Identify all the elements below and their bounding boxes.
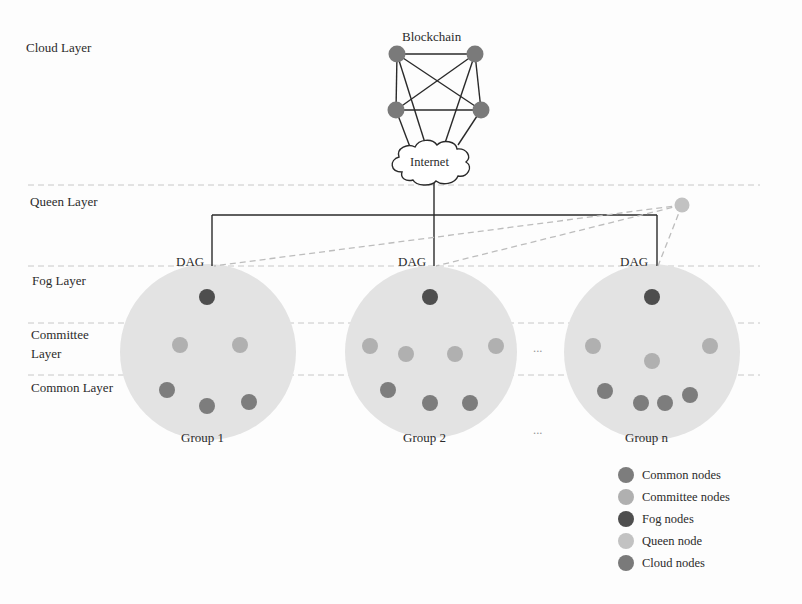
blockchain-label: Blockchain [402, 29, 461, 44]
layer-label-committee-1: Committee [31, 327, 89, 342]
legend-item-common: Common nodes [618, 464, 721, 486]
group-label-n: Group n [625, 430, 668, 445]
fog-node [644, 289, 660, 305]
committee-node [172, 337, 188, 353]
committee-node [362, 338, 378, 354]
common-node [199, 398, 215, 414]
committee-node [447, 346, 463, 362]
legend-label: Fog nodes [642, 512, 694, 527]
ellipsis-bottom: ... [533, 423, 542, 438]
committee-node-icon [618, 489, 634, 505]
common-node [159, 382, 175, 398]
cloud-node [473, 102, 490, 119]
legend-label: Committee nodes [642, 490, 730, 505]
common-node [682, 387, 698, 403]
committee-node [585, 338, 601, 354]
layer-label-queen: Queen Layer [30, 194, 98, 209]
committee-node [644, 353, 660, 369]
layer-label-cloud: Cloud Layer [26, 40, 91, 55]
cloud-node [388, 102, 405, 119]
cloud-node-icon [618, 555, 634, 571]
legend-item-committee: Committee nodes [618, 486, 730, 508]
common-node [597, 383, 613, 399]
common-node [241, 394, 257, 410]
layer-label-common: Common Layer [31, 380, 113, 395]
fog-node-icon [618, 511, 634, 527]
network-bus [212, 183, 657, 266]
cloud-node [389, 46, 406, 63]
ellipsis-middle: ... [533, 341, 542, 356]
fog-node [199, 289, 215, 305]
layer-label-committee-2: Layer [31, 346, 61, 361]
blockchain-mesh [396, 54, 481, 147]
legend-item-queen: Queen node [618, 530, 702, 552]
common-node [633, 395, 649, 411]
common-node [380, 382, 396, 398]
legend-item-cloud: Cloud nodes [618, 552, 705, 574]
cloud-node [467, 46, 484, 63]
committee-node [488, 338, 504, 354]
common-node [422, 395, 438, 411]
dag-label-group-1: DAG [176, 254, 204, 269]
common-node [657, 395, 673, 411]
dag-label-group-n: DAG [620, 254, 648, 269]
dag-label-group-2: DAG [398, 254, 426, 269]
committee-node [398, 346, 414, 362]
common-node [462, 395, 478, 411]
queen-node [675, 198, 690, 213]
legend-item-fog: Fog nodes [618, 508, 694, 530]
committee-node [232, 337, 248, 353]
legend-label: Queen node [642, 534, 702, 549]
queen-links [214, 205, 682, 266]
committee-node [702, 338, 718, 354]
queen-node-icon [618, 533, 634, 549]
internet-label: Internet [410, 155, 449, 170]
group-label-1: Group 1 [181, 430, 224, 445]
common-node-icon [618, 467, 634, 483]
layer-label-fog: Fog Layer [32, 273, 86, 288]
group-label-2: Group 2 [403, 430, 446, 445]
legend-label: Common nodes [642, 468, 721, 483]
blockchain-fog-architecture-diagram: Cloud Layer Queen Layer Fog Layer Commit… [0, 0, 802, 604]
legend-label: Cloud nodes [642, 556, 705, 571]
fog-node [422, 289, 438, 305]
